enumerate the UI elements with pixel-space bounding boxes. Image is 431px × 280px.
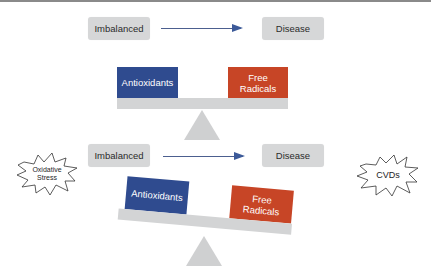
arrow-icon — [161, 28, 241, 29]
imbalanced-label-box: Imbalanced — [88, 144, 150, 167]
fulcrum-triangle-icon — [186, 236, 222, 266]
oxidative-stress-callout: Oxidative Stress — [14, 151, 80, 197]
imbalanced-text: Imbalanced — [94, 150, 143, 161]
arrowhead-icon — [234, 152, 245, 160]
free-radicals-text-line2: Radicals — [242, 203, 279, 217]
antioxidants-text: Antioxidants — [131, 188, 184, 203]
free-radicals-block: Free Radicals — [229, 185, 294, 223]
disease-text: Disease — [276, 150, 310, 161]
oxidative-text: Oxidative — [32, 166, 61, 174]
cvds-callout: CVDs — [355, 152, 421, 198]
disease-label-box: Disease — [262, 144, 324, 167]
cvds-text: CVDs — [376, 170, 400, 180]
disease-label-box: Disease — [262, 17, 324, 40]
top-border-rule — [0, 0, 431, 2]
antioxidants-text: Antioxidants — [122, 77, 174, 88]
oxidative-stress-label: Oxidative Stress — [14, 151, 80, 197]
scale-beam — [117, 98, 288, 109]
arrowhead-icon — [232, 24, 243, 32]
disease-text: Disease — [276, 23, 310, 34]
imbalanced-text: Imbalanced — [94, 23, 143, 34]
imbalanced-label-box: Imbalanced — [88, 17, 150, 40]
free-radicals-block: Free Radicals — [228, 67, 288, 98]
antioxidants-block: Antioxidants — [125, 176, 190, 214]
free-radicals-text-line1: Free — [248, 72, 268, 83]
fulcrum-triangle-icon — [184, 110, 220, 140]
arrow-icon — [163, 156, 243, 157]
free-radicals-text-line2: Radicals — [240, 83, 276, 94]
cvds-label: CVDs — [355, 152, 421, 198]
antioxidants-block: Antioxidants — [117, 67, 178, 98]
stress-text: Stress — [37, 174, 57, 182]
